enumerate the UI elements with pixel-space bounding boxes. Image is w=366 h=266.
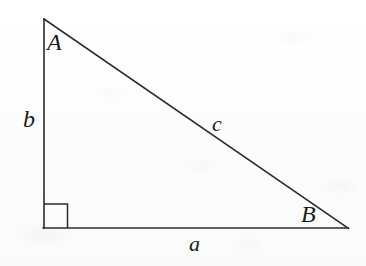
side-label-a: a (189, 233, 200, 255)
vertex-label-a: A (47, 30, 62, 54)
right-triangle-figure: A b c B a (0, 0, 366, 266)
side-label-c: c (212, 113, 222, 135)
hypotenuse-c-line (44, 19, 349, 229)
side-label-b: b (23, 107, 35, 131)
vertex-label-b: B (301, 202, 316, 226)
right-angle-marker-icon (44, 204, 68, 228)
